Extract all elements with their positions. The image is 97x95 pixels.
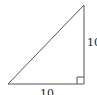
horizontal-side-label: 10 [40, 87, 54, 95]
triangle-diagram: 10 10 [0, 0, 97, 95]
right-angle-marker [77, 77, 84, 84]
right-triangle [8, 5, 84, 84]
triangle-svg: 10 10 [0, 0, 97, 95]
vertical-side-label: 10 [87, 36, 97, 49]
